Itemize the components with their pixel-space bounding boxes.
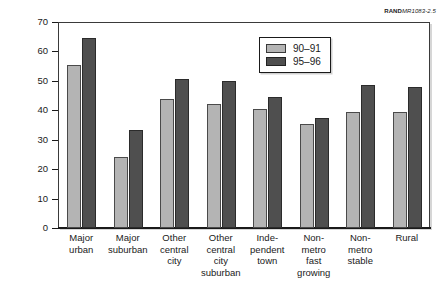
bar-group [58, 22, 105, 228]
bar [361, 85, 375, 228]
bar-group [151, 22, 198, 228]
bars-layer [58, 22, 430, 228]
x-label-line: stable [332, 255, 389, 267]
legend-swatch [266, 44, 286, 53]
bar [175, 79, 189, 228]
bar-group [384, 22, 431, 228]
bar [393, 112, 407, 228]
x-axis-label: Rural [379, 232, 436, 244]
bar [253, 109, 267, 228]
x-label-line: metro [332, 244, 389, 256]
y-tick-label: 70 [14, 17, 48, 27]
legend-label: 90–91 [293, 43, 321, 54]
legend-swatch [266, 57, 286, 66]
bar-group [105, 22, 152, 228]
bar [315, 118, 329, 228]
figure-id: RANDMR1083-2.5 [384, 8, 436, 14]
bar [129, 130, 143, 228]
y-tick-label: 30 [14, 135, 48, 145]
bar [67, 65, 81, 228]
legend-item: 95–96 [266, 55, 321, 68]
figure-number: MR1083-2.5 [402, 8, 436, 14]
bar [346, 112, 360, 228]
bar [207, 104, 221, 228]
x-axis-labels: MajorurbanMajorsuburbanOthercentralcityO… [58, 232, 430, 298]
y-tick-label: 20 [14, 164, 48, 174]
y-tick-label: 60 [14, 46, 48, 56]
y-tick-label: 40 [14, 105, 48, 115]
y-tick-label: 0 [14, 223, 48, 233]
bar [408, 87, 422, 228]
bar [160, 99, 174, 228]
x-label-line: suburban [193, 267, 250, 279]
rand-logo-text: RAND [384, 8, 402, 14]
bar [268, 97, 282, 228]
x-label-line: Rural [379, 232, 436, 244]
bar [82, 38, 96, 228]
x-label-line: growing [286, 267, 343, 279]
bar [300, 124, 314, 228]
legend: 90–9195–96 [259, 37, 331, 73]
bar-group [337, 22, 384, 228]
bar [222, 81, 236, 228]
bar [114, 157, 128, 228]
y-tick-label: 50 [14, 76, 48, 86]
bar-group [198, 22, 245, 228]
y-tick-label: 10 [14, 194, 48, 204]
legend-item: 90–91 [266, 42, 321, 55]
legend-label: 95–96 [293, 56, 321, 67]
